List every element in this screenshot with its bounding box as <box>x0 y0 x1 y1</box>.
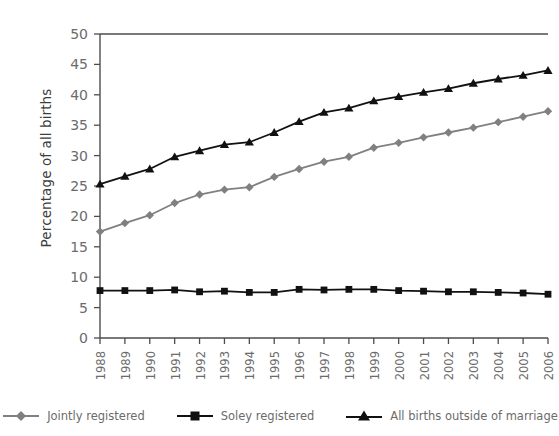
data-point-marker <box>345 286 352 293</box>
data-point-marker <box>370 286 377 293</box>
x-tick-label: 1995 <box>268 351 282 380</box>
data-point-marker <box>246 289 253 296</box>
y-tick-label: 30 <box>70 148 88 164</box>
x-tick-label: 1992 <box>194 351 208 380</box>
legend-swatch-square-icon <box>175 409 215 423</box>
data-point-marker <box>345 153 353 161</box>
x-tick-label: 1990 <box>144 351 158 380</box>
x-axis-ticks: 1988198919901991199219931994199519961997… <box>94 338 556 380</box>
plot-area: 05101520253035404550 1988198919901991199… <box>0 0 559 404</box>
data-point-marker <box>271 289 278 296</box>
chart-legend: Jointly registered Soley registered All … <box>0 404 559 428</box>
y-tick-label: 40 <box>70 87 88 103</box>
legend-swatch-triangle-icon <box>344 409 384 423</box>
x-tick-label: 1999 <box>368 351 382 380</box>
data-point-marker <box>545 291 552 298</box>
data-point-marker <box>296 286 303 293</box>
data-point-marker <box>171 287 178 294</box>
data-point-marker <box>220 185 228 193</box>
data-point-marker <box>146 287 153 294</box>
x-tick-label: 2005 <box>517 351 531 380</box>
legend-label-all-births-outside-of-marriage: All births outside of marriage <box>390 409 558 423</box>
y-tick-label: 0 <box>79 330 88 346</box>
data-point-marker <box>519 112 527 120</box>
data-point-marker <box>544 107 552 115</box>
data-point-marker <box>146 211 154 219</box>
data-point-marker <box>195 190 203 198</box>
y-tick-label: 20 <box>70 208 88 224</box>
data-point-marker <box>394 139 402 147</box>
y-tick-label: 5 <box>79 300 88 316</box>
x-tick-label: 1994 <box>243 351 257 380</box>
data-point-marker <box>470 288 477 295</box>
data-series-layer <box>95 66 552 298</box>
data-point-marker <box>145 165 154 173</box>
chart-container: Percentage of all births 051015202530354… <box>0 0 559 436</box>
legend-item-all-births-outside-of-marriage: All births outside of marriage <box>344 409 558 423</box>
data-point-marker <box>321 287 328 294</box>
data-point-marker <box>444 128 452 136</box>
data-point-marker <box>270 173 278 181</box>
x-tick-label: 2002 <box>442 351 456 380</box>
data-point-marker <box>420 288 427 295</box>
x-tick-label: 2004 <box>492 351 506 380</box>
x-tick-label: 1991 <box>169 351 183 380</box>
data-point-marker <box>495 289 502 296</box>
data-point-marker <box>494 118 502 126</box>
legend-label-jointly-registered: Jointly registered <box>47 409 145 423</box>
y-tick-label: 50 <box>70 26 88 42</box>
data-point-marker <box>543 66 552 74</box>
data-point-marker <box>97 287 104 294</box>
data-point-marker <box>295 165 303 173</box>
y-tick-label: 10 <box>70 269 88 285</box>
x-tick-label: 1993 <box>218 351 232 380</box>
y-tick-label: 35 <box>70 117 88 133</box>
x-tick-label: 2001 <box>418 351 432 380</box>
y-tick-label: 25 <box>70 178 88 194</box>
x-tick-label: 1989 <box>119 351 133 380</box>
legend-label-soley-registered: Soley registered <box>221 409 315 423</box>
data-point-marker <box>96 227 104 235</box>
series-jointly-registered <box>96 107 552 236</box>
data-point-marker <box>520 290 527 297</box>
x-tick-label: 1998 <box>343 351 357 380</box>
x-tick-label: 1997 <box>318 351 332 380</box>
data-point-marker <box>370 143 378 151</box>
y-tick-label: 45 <box>70 56 88 72</box>
x-tick-label: 2006 <box>542 351 556 380</box>
series-soley-registered <box>97 286 552 298</box>
series-all-births-outside-of-marriage <box>95 66 552 187</box>
legend-item-jointly-registered: Jointly registered <box>1 409 145 423</box>
x-tick-label: 1996 <box>293 351 307 380</box>
x-tick-label: 1988 <box>94 351 108 380</box>
data-point-marker <box>121 219 129 227</box>
legend-item-soley-registered: Soley registered <box>175 409 315 423</box>
y-axis-ticks: 05101520253035404550 <box>70 26 100 346</box>
data-point-marker <box>121 287 128 294</box>
data-point-marker <box>419 133 427 141</box>
data-point-marker <box>245 183 253 191</box>
data-point-marker <box>469 123 477 131</box>
data-point-marker <box>445 288 452 295</box>
data-point-marker <box>320 157 328 165</box>
x-tick-label: 2003 <box>467 351 481 380</box>
data-point-marker <box>221 288 228 295</box>
x-tick-label: 2000 <box>393 351 407 380</box>
data-point-marker <box>395 287 402 294</box>
legend-swatch-diamond-icon <box>1 409 41 423</box>
data-point-marker <box>196 288 203 295</box>
y-tick-label: 15 <box>70 239 88 255</box>
data-point-marker <box>170 199 178 207</box>
